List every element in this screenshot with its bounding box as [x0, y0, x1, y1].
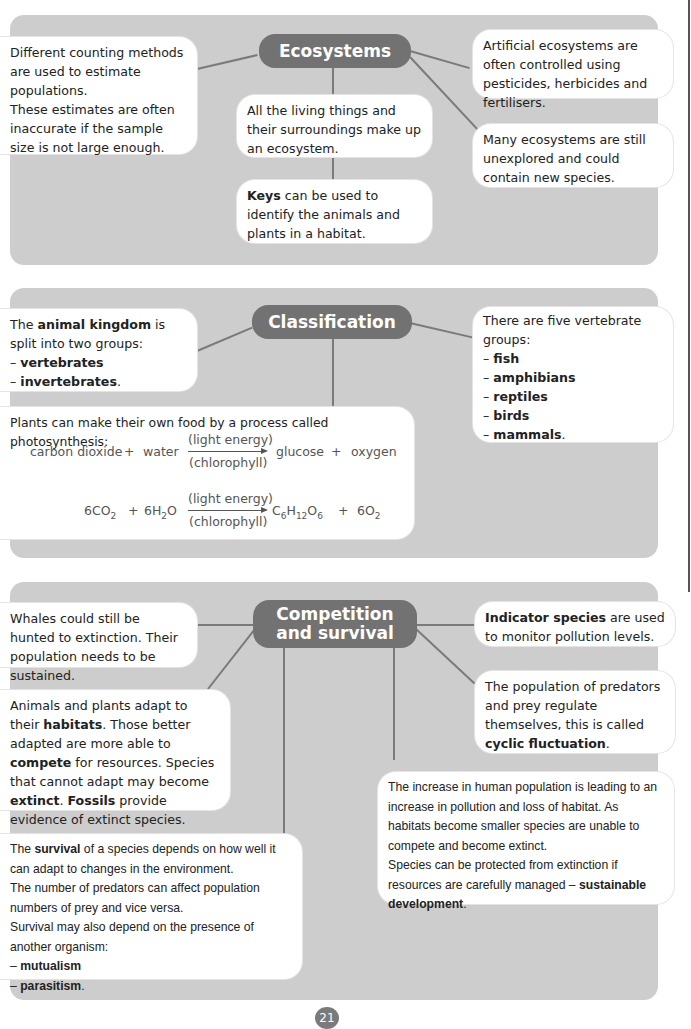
extinct-bold: extinct — [10, 793, 59, 808]
connector — [197, 624, 257, 626]
reaction-arrow-icon — [188, 510, 266, 511]
box-text: Survival may also depend on the presence… — [10, 918, 292, 957]
box-text: The — [10, 317, 37, 332]
title-line: Competition — [253, 605, 417, 624]
list-item: – amphibians — [483, 368, 663, 387]
box-text: Different counting methods are used to e… — [10, 43, 187, 100]
period: . — [81, 979, 84, 993]
list-item: – mammals. — [483, 425, 663, 444]
dash: – — [483, 427, 493, 442]
dash: – — [483, 408, 493, 423]
group-bold: amphibians — [493, 370, 575, 385]
connector — [332, 338, 334, 408]
eq-co2: 6CO2 — [84, 503, 116, 521]
connector — [283, 645, 285, 835]
dash: – — [483, 389, 493, 404]
eq-plus: + — [128, 503, 138, 518]
eq-condition-below: (chlorophyll) — [189, 514, 267, 529]
competition-title: Competition and survival — [253, 600, 417, 648]
dash: – — [10, 374, 20, 389]
box-text: These estimates are often inaccurate if … — [10, 100, 187, 157]
dash: – — [10, 959, 20, 973]
title-line: and survival — [253, 624, 417, 643]
mutualism-bold: mutualism — [20, 959, 81, 973]
connector — [332, 65, 334, 95]
connector — [393, 645, 395, 760]
box-text: . — [606, 736, 610, 751]
vertebrates-bold: vertebrates — [20, 355, 103, 370]
invertebrates-bold: invertebrates — [20, 374, 117, 389]
cyclic-fluctuation-bold: cyclic fluctuation — [485, 736, 606, 751]
list-item: – vertebrates — [10, 353, 187, 372]
compete-bold: compete — [10, 755, 71, 770]
animal-kingdom-bold: animal kingdom — [37, 317, 151, 332]
list-item: – mutualism — [10, 957, 292, 977]
animal-kingdom-box: The animal kingdom is split into two gro… — [0, 309, 197, 391]
artificial-ecosystems-box: Artificial ecosystems are often controll… — [473, 30, 673, 98]
connector — [332, 155, 334, 180]
indicator-species-box: Indicator species are used to monitor po… — [475, 602, 675, 646]
unexplored-ecosystems-box: Many ecosystems are still unexplored and… — [473, 124, 673, 187]
classification-title: Classification — [252, 305, 412, 339]
living-things-box: All the living things and their surround… — [237, 95, 432, 157]
eq-plus: + — [331, 444, 341, 459]
survival-bold: survival — [34, 842, 80, 856]
box-text: The — [10, 842, 34, 856]
list-item: – fish — [483, 349, 663, 368]
eq-o2: 6O2 — [357, 503, 381, 521]
page-number: 21 — [315, 1007, 339, 1029]
parasitism-bold: parasitism — [20, 979, 81, 993]
dash: – — [10, 979, 20, 993]
group-bold: birds — [493, 408, 529, 423]
eq-h2o: 6H2O — [144, 503, 177, 521]
page-edge — [688, 0, 690, 592]
eq-glucose-formula: C6H12O6 — [272, 503, 323, 521]
human-population-box: The increase in human population is lead… — [378, 772, 674, 904]
list-item: – birds — [483, 406, 663, 425]
survival-box: The survival of a species depends on how… — [0, 834, 302, 979]
group-bold: fish — [493, 351, 519, 366]
eq-condition-above: (light energy) — [188, 432, 273, 447]
counting-methods-box: Different counting methods are used to e… — [0, 37, 197, 154]
period: . — [562, 427, 566, 442]
vertebrate-groups-box: There are five vertebrate groups: – fish… — [473, 307, 673, 442]
eq-product: glucose — [276, 444, 324, 459]
eq-reactant: water — [143, 444, 179, 459]
connector — [416, 624, 476, 626]
box-text: There are five vertebrate groups: — [483, 311, 663, 349]
period: . — [117, 374, 121, 389]
whales-box: Whales could still be hunted to extincti… — [0, 603, 197, 667]
eq-product: oxygen — [351, 444, 397, 459]
dash: – — [483, 351, 493, 366]
eq-condition-below: (chlorophyll) — [189, 455, 267, 470]
eq-plus: + — [124, 444, 134, 459]
keys-box: Keys can be used to identify the animals… — [237, 180, 432, 243]
box-text: The population of predators and prey reg… — [485, 679, 660, 732]
keys-bold: Keys — [247, 188, 281, 203]
fossils-bold: Fossils — [67, 793, 115, 808]
eq-reactant: carbon dioxide — [30, 444, 122, 459]
indicator-species-bold: Indicator species — [485, 610, 606, 625]
habitats-bold: habitats — [43, 717, 102, 732]
box-text: The increase in human population is lead… — [388, 778, 664, 856]
group-bold: reptiles — [493, 389, 547, 404]
box-text: The number of predators can affect popul… — [10, 879, 292, 918]
list-item: – reptiles — [483, 387, 663, 406]
ecosystems-title: Ecosystems — [259, 34, 411, 68]
adaptation-box: Animals and plants adapt to their habita… — [0, 690, 230, 810]
group-bold: mammals — [493, 427, 561, 442]
dash: – — [483, 370, 493, 385]
dash: – — [10, 355, 20, 370]
box-text: . — [463, 897, 466, 911]
predators-box: The population of predators and prey reg… — [475, 671, 675, 753]
reaction-arrow-icon — [188, 451, 266, 452]
eq-condition-above: (light energy) — [188, 491, 273, 506]
eq-plus: + — [338, 503, 348, 518]
list-item: – invertebrates. — [10, 372, 187, 391]
list-item: – parasitism. — [10, 977, 292, 997]
